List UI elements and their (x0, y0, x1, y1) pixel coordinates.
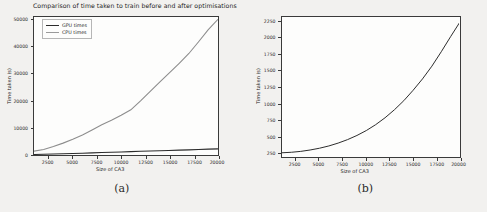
subfigure-a: Comparison of time taken to train before… (0, 0, 244, 212)
chart-a-xtick-label: 12500 (138, 160, 153, 165)
chart-a-xtick-mark (97, 156, 98, 159)
chart-a-ytick-mark (31, 128, 34, 129)
chart-b-xtick-label: 10000 (358, 162, 373, 167)
chart-a-xtick-mark (219, 156, 220, 159)
subfigure-b: 250 500 750 1000 1250 1500 1750 2000 225… (244, 0, 487, 212)
chart-a-xtick-label: 20000 (210, 160, 225, 165)
chart-b-xtick-label: 5000 (313, 162, 325, 167)
chart-a-xtick-mark (121, 156, 122, 159)
chart-a-xtick-mark (170, 156, 171, 159)
chart-b-xtick-mark (318, 158, 319, 161)
chart-b-xaxis-title: Size of CA3 (341, 168, 369, 174)
chart-a-xtick-label: 2500 (42, 160, 54, 165)
chart-b-series-gpu (282, 22, 460, 153)
chart-a-plot-area: GPU times CPU times 0 10000 20000 30000 … (33, 16, 219, 156)
chart-b-xtick-mark (437, 158, 438, 161)
chart-b-ytick-mark (278, 37, 281, 38)
chart-a-yaxis-title: Time taken (s) (6, 68, 12, 104)
subfigure-b-caption: (b) (244, 182, 487, 195)
chart-b-ytick-mark (278, 87, 281, 88)
chart-a-title: Comparison of time taken to train before… (33, 2, 223, 9)
chart-a-xtick-mark (195, 156, 196, 159)
figure-container: Comparison of time taken to train before… (0, 0, 487, 212)
chart-b-ytick-mark (278, 104, 281, 105)
chart-b-xtick-mark (389, 158, 390, 161)
chart-b-ytick-label: 500 (259, 134, 276, 139)
chart-b-ytick-mark (278, 21, 281, 22)
chart-a-ytick-label: 50000 (8, 16, 28, 21)
chart-b-xtick-label: 15000 (406, 162, 421, 167)
chart-b-ytick-label: 250 (259, 151, 276, 156)
chart-a-xaxis-title: Size of CA3 (96, 166, 124, 172)
chart-b-ytick-label: 1250 (259, 84, 276, 89)
chart-a-ytick-mark (31, 19, 34, 20)
chart-a-ytick-label: 0 (8, 153, 28, 158)
subfigure-a-caption: (a) (0, 182, 244, 195)
chart-b-lines (282, 17, 460, 157)
chart-a-series-gpu (34, 149, 218, 155)
chart-b-ytick-mark (278, 153, 281, 154)
chart-a-ytick-label: 40000 (8, 44, 28, 49)
chart-a-legend: GPU times CPU times (42, 19, 92, 39)
chart-b-ytick-mark (278, 120, 281, 121)
chart-b-xtick-label: 7500 (336, 162, 348, 167)
chart-b-plot-area: 250 500 750 1000 1250 1500 1750 2000 225… (281, 16, 461, 158)
chart-a-xtick-mark (48, 156, 49, 159)
chart-a-ytick-mark (31, 73, 34, 74)
chart-b-yaxis-title: Time taken (s) (255, 68, 261, 104)
chart-b-xtick-mark (461, 158, 462, 161)
chart-b-ytick-label: 1750 (259, 51, 276, 56)
chart-b-ytick-label: 1000 (259, 101, 276, 106)
chart-a-ytick-label: 10000 (8, 125, 28, 130)
chart-b-axes-frame (281, 16, 461, 158)
chart-b-xtick-label: 12500 (382, 162, 397, 167)
chart-a-xtick-label: 7500 (91, 160, 103, 165)
chart-a-ytick-mark (31, 155, 34, 156)
chart-b-xtick-mark (413, 158, 414, 161)
chart-b-xtick-mark (366, 158, 367, 161)
legend-line-cpu-icon (46, 32, 59, 33)
chart-a-ytick-mark (31, 101, 34, 102)
chart-b-ytick-mark (278, 137, 281, 138)
chart-b-ytick-label: 750 (259, 118, 276, 123)
chart-b-xtick-label: 20000 (451, 162, 466, 167)
chart-a-xtick-label: 5000 (66, 160, 78, 165)
legend-label-cpu: CPU times (62, 30, 87, 35)
legend-label-gpu: GPU times (62, 23, 87, 28)
chart-a-xtick-label: 15000 (163, 160, 178, 165)
chart-b-ytick-label: 1500 (259, 68, 276, 73)
chart-a-xtick-mark (72, 156, 73, 159)
chart-a-series-cpu (34, 19, 218, 151)
chart-a-xtick-label: 10000 (114, 160, 129, 165)
legend-item-cpu: CPU times (46, 30, 87, 35)
legend-line-gpu-icon (46, 25, 59, 26)
chart-b-xtick-label: 17500 (429, 162, 444, 167)
chart-b-ytick-label: 2000 (259, 35, 276, 40)
chart-a-xtick-label: 17500 (187, 160, 202, 165)
chart-b-ytick-mark (278, 70, 281, 71)
chart-b-xtick-mark (342, 158, 343, 161)
chart-b-ytick-label: 2250 (259, 18, 276, 23)
chart-b-xtick-label: 2500 (289, 162, 301, 167)
legend-item-gpu: GPU times (46, 23, 87, 28)
chart-a-xtick-mark (146, 156, 147, 159)
chart-a-ytick-mark (31, 46, 34, 47)
chart-b-xtick-mark (295, 158, 296, 161)
chart-b-ytick-mark (278, 54, 281, 55)
